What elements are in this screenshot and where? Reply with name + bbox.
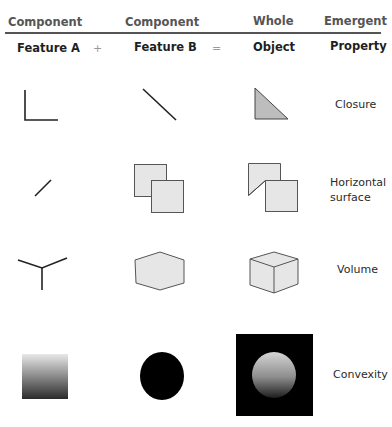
overlapping-squares-shape — [135, 165, 184, 213]
property-volume: Volume — [337, 263, 378, 277]
right-triangle-shape — [255, 88, 288, 119]
black-ellipse-shape — [140, 352, 184, 400]
shaded-sphere-on-black-shape — [236, 334, 313, 416]
folded-squares-shape — [249, 164, 298, 212]
property-horizontal: Horizontal — [330, 176, 386, 190]
short-oblique-line-shape — [35, 180, 51, 196]
diagonal-line-shape — [143, 89, 176, 120]
property-closure: Closure — [335, 98, 376, 112]
figure-canvas — [0, 0, 392, 427]
hexagon-shape — [135, 252, 184, 290]
cube-shape — [250, 252, 298, 293]
corner-lines-shape — [25, 90, 58, 120]
shaded-gradient-square-shape — [22, 354, 68, 399]
property-convexity: Convexity — [333, 368, 388, 382]
property-surface: surface — [330, 191, 371, 205]
y-junction-shape — [18, 258, 67, 290]
